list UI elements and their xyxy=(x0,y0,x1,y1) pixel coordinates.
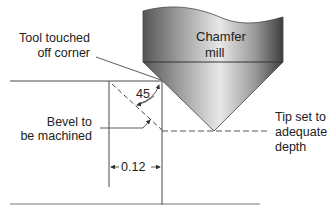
touch-label-line2: off corner xyxy=(16,46,90,60)
tip-label-line1: Tip set to xyxy=(275,110,326,124)
dimension-label: 0.12 xyxy=(121,160,145,174)
tool-label-line2: mill xyxy=(205,46,225,60)
angle-label: 45 xyxy=(136,87,150,101)
bevel-label-line2: be machined xyxy=(12,129,92,143)
tip-label-line3: depth xyxy=(275,140,306,154)
bevel-leader-line xyxy=(100,120,150,128)
tool-label-line1: Chamfer xyxy=(196,30,246,44)
tip-label-line2: adequate xyxy=(275,125,327,139)
chamfer-mill-tool xyxy=(143,7,283,131)
bevel-label-line1: Bevel to xyxy=(12,115,92,129)
touch-label-line1: Tool touched xyxy=(16,31,90,45)
